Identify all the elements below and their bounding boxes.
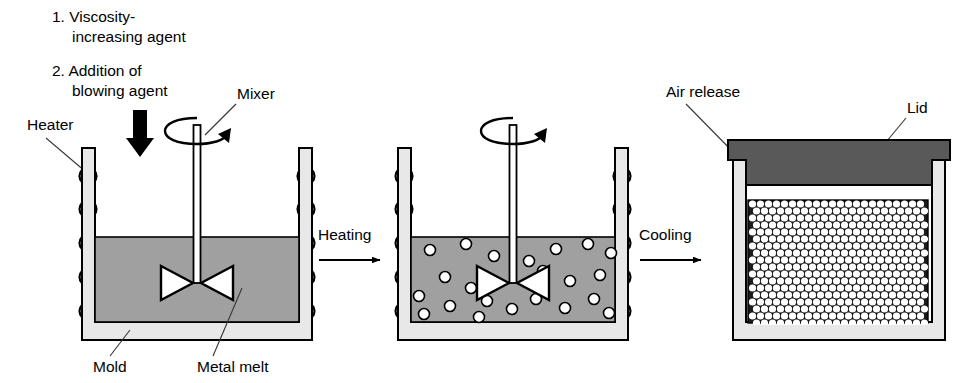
foam-cell [765, 312, 772, 319]
foam-cell [901, 200, 908, 207]
foam-cell [825, 305, 832, 312]
lid-label: Lid [907, 99, 928, 116]
foam-cell [849, 263, 856, 270]
foam-cell [865, 263, 872, 270]
foam-cell [797, 270, 804, 277]
foam-cell [853, 270, 860, 277]
foam-cell [921, 235, 928, 242]
mixer-shaft [510, 125, 517, 283]
foam-cell [825, 263, 832, 270]
foam-cell [757, 242, 764, 249]
foam-cell [769, 207, 776, 214]
foam-cell [797, 214, 804, 221]
foam-cell [901, 242, 908, 249]
foam-cell [769, 249, 776, 256]
foam-cell [829, 298, 836, 305]
foam-cell [921, 263, 928, 270]
foam-cell [845, 312, 852, 319]
step-annotations: 1. Viscosity- increasing agent 2. Additi… [52, 8, 186, 99]
foam-cell [921, 291, 928, 298]
foam-cell [873, 235, 880, 242]
foam-cell [869, 200, 876, 207]
foam-cell [917, 256, 924, 263]
foam-cell [869, 270, 876, 277]
foam-cell [921, 277, 928, 284]
foam-cell [841, 277, 848, 284]
foam-cell [837, 256, 844, 263]
metal-melt-label: Metal melt [197, 358, 269, 375]
foam-cell [905, 235, 912, 242]
foam-cell [773, 214, 780, 221]
foam-cell [757, 256, 764, 263]
gas-bubble [604, 308, 615, 319]
foam-cell [889, 221, 896, 228]
foam-cell [873, 207, 880, 214]
foam-cell [821, 242, 828, 249]
gas-bubble [461, 239, 472, 250]
foam-cell [897, 305, 904, 312]
foam-cell [761, 207, 768, 214]
foam-cell [917, 298, 924, 305]
foam-cell [757, 312, 764, 319]
foam-cell [793, 291, 800, 298]
foam-cell [753, 235, 760, 242]
foam-cell [841, 305, 848, 312]
foam-cell [869, 214, 876, 221]
foam-cell [885, 284, 892, 291]
foam-cell [813, 270, 820, 277]
foam-cell [861, 200, 868, 207]
foam-cell [913, 235, 920, 242]
foam-cell [773, 298, 780, 305]
foam-cell [897, 207, 904, 214]
foam-cell [813, 284, 820, 291]
foam-cell [781, 312, 788, 319]
foam-cell [773, 256, 780, 263]
foam-cell [825, 249, 832, 256]
foam-cell [781, 228, 788, 235]
foam-cell [881, 305, 888, 312]
foam-cell [753, 249, 760, 256]
foam-cell [893, 242, 900, 249]
foam-cell [885, 312, 892, 319]
foam-cell [769, 221, 776, 228]
foam-cell [789, 200, 796, 207]
foam-cell [753, 207, 760, 214]
foam-cell [885, 298, 892, 305]
foam-cell [777, 235, 784, 242]
foam-cell [785, 291, 792, 298]
foam-cell [877, 284, 884, 291]
foam-cell [889, 305, 896, 312]
foam-cell [869, 298, 876, 305]
foam-cell [901, 284, 908, 291]
foam-cell [889, 249, 896, 256]
foam-cell [825, 235, 832, 242]
foam-cell [837, 214, 844, 221]
foam-cell [753, 291, 760, 298]
step1-line2: increasing agent [72, 28, 186, 45]
foam-cell [837, 270, 844, 277]
mixer-label: Mixer [237, 85, 275, 102]
foam-cell [761, 235, 768, 242]
foam-cell [837, 298, 844, 305]
foam-cell [821, 256, 828, 263]
foam-cell [825, 277, 832, 284]
foam-cell [769, 305, 776, 312]
foam-cell [849, 221, 856, 228]
foam-cell [829, 270, 836, 277]
foam-cell [765, 214, 772, 221]
foam-cell [913, 263, 920, 270]
foam-cell [825, 221, 832, 228]
foam-cell [777, 207, 784, 214]
foam-cell [845, 284, 852, 291]
foam-cell [837, 228, 844, 235]
foam-cell [905, 263, 912, 270]
foam-cell [865, 277, 872, 284]
foam-cell [869, 228, 876, 235]
stage-2-vessel [396, 118, 631, 340]
foam-cell [757, 214, 764, 221]
foam-cell [849, 235, 856, 242]
foam-cell [861, 298, 868, 305]
stage-1-vessel [80, 118, 315, 340]
foam-cell [757, 270, 764, 277]
foam-cell [769, 291, 776, 298]
